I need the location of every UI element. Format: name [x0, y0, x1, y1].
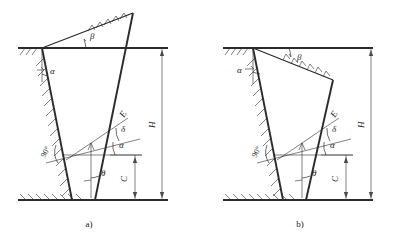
panel-b-theta-arc: [302, 176, 310, 178]
panel-a-slope-hatch: [88, 13, 127, 31]
panel-b-H-label: H: [356, 121, 366, 129]
panel-b-alpha-top-label: α: [237, 65, 242, 75]
panel-a-dimension-H: H: [147, 48, 164, 200]
panel-a-right-angle-label: 90°: [39, 145, 52, 159]
panel-a-pressure-node: 90°: [39, 118, 142, 163]
panel-a-C-label: C: [119, 175, 129, 182]
panel-b-alpha-top-arc: [253, 72, 260, 74]
panel-a: β α: [18, 13, 168, 229]
panel-b-H-arrow-bottom: [369, 192, 373, 198]
panel-b-backfill-slope-line: [253, 48, 333, 80]
panel-b-failure-plane: [306, 80, 333, 200]
panel-b-wall-hatch: [247, 58, 281, 196]
panel-b-dimension-H: H: [356, 48, 373, 200]
panel-b-pressure-node: 90°: [250, 118, 353, 163]
panel-a-theta-arrow-right: [91, 143, 94, 150]
panel-b-right-angle-label: 90°: [250, 145, 263, 159]
panel-b-force-E-label: E: [328, 109, 340, 120]
panel-a-C-arrow-top: [133, 157, 137, 163]
figure-canvas: β α: [0, 0, 405, 243]
panel-b-wall-back-face: [253, 48, 283, 200]
panel-b-theta-label: θ: [312, 168, 317, 178]
panel-a-H-label: H: [147, 121, 157, 129]
panel-b-force-E-ray: [277, 118, 339, 160]
panel-a-theta-arc: [91, 176, 99, 178]
panel-a-alpha-top-arrowhead: [41, 67, 44, 70]
panel-a-beta-label: β: [89, 31, 95, 41]
panel-a-wall-hatch: [36, 58, 70, 196]
panel-a-alpha-mid-label: α: [119, 140, 124, 150]
panel-b-beta-label: β: [296, 52, 302, 62]
panel-a-force-E-label: E: [117, 109, 129, 120]
panel-b-alpha-mid-arc: [324, 142, 326, 155]
panel-b-alpha-top-arrowhead: [251, 66, 254, 69]
panel-b-delta-label: δ: [332, 124, 337, 134]
panel-b-C-arrow-bottom: [344, 192, 348, 198]
panel-a-backfill-slope-line: [42, 13, 133, 48]
panel-b-H-arrow-top: [369, 50, 373, 56]
panel-a-caption: a): [86, 219, 93, 229]
panel-b-theta-arrow-right: [302, 143, 305, 150]
panel-b-C-arrow-top: [344, 157, 348, 163]
panel-b-dimension-C: C: [321, 155, 353, 200]
panel-a-theta-label: θ: [101, 168, 106, 178]
panel-a-surface-hatch-left: [20, 48, 37, 55]
panel-b-slope-hatch: [283, 54, 330, 77]
panel-a-wall-back-face: [42, 48, 72, 200]
panel-a-H-arrow-top: [160, 50, 164, 56]
panel-a-dimension-C: C: [110, 155, 142, 200]
panel-b-C-label: C: [330, 175, 340, 182]
panel-b-alpha-mid-label: α: [330, 140, 335, 150]
panel-b-surface-hatch-left: [225, 48, 248, 55]
diagram-svg: β α: [0, 0, 405, 243]
panel-a-H-arrow-bottom: [160, 192, 164, 198]
panel-b-theta-tick: [295, 180, 302, 181]
panel-a-alpha-mid-arc: [113, 142, 115, 155]
panel-a-delta-label: δ: [121, 124, 126, 134]
panel-a-force-E-ray: [66, 118, 128, 160]
panel-a-theta-tick: [84, 180, 91, 181]
panel-b-caption: b): [296, 219, 304, 229]
panel-b: β α: [223, 48, 373, 229]
panel-a-alpha-top-label: α: [50, 66, 55, 76]
panel-a-C-arrow-bottom: [133, 192, 137, 198]
